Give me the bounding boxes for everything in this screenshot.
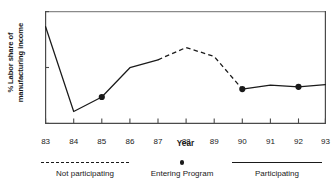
legend-item-entering-program: Entering Program [132, 158, 232, 179]
chart-legend: Not participating Entering Program Parti… [0, 158, 331, 191]
y-axis-label-line-2: manufacturing income [16, 3, 26, 123]
solid-line-icon [228, 158, 326, 169]
axis-lines [45, 11, 326, 124]
y-axis-label: % Labor share of manufacturing income [6, 3, 25, 123]
plot-area: 30 25 20 83 84 85 86 87 88 89 90 91 92 9… [45, 11, 326, 124]
x-tick-marks [46, 118, 326, 123]
series-line-solid-late [242, 85, 325, 90]
legend-item-participating: Participating [228, 158, 326, 179]
dashed-line-icon [33, 158, 137, 169]
series-line-dashed-middle [158, 48, 242, 90]
chart-figure: % Labor share of manufacturing income [0, 0, 331, 191]
legend-label-entering-program: Entering Program [132, 169, 232, 179]
entering-program-markers [99, 84, 302, 100]
legend-label-not-participating: Not participating [33, 169, 137, 179]
data-point-marker [99, 94, 105, 100]
data-point-marker [239, 86, 245, 92]
filled-dot-icon [132, 158, 232, 169]
legend-label-participating: Participating [228, 169, 326, 179]
legend-item-not-participating: Not participating [33, 158, 137, 179]
data-point-marker [295, 84, 301, 90]
x-axis-label: Year [45, 139, 326, 148]
y-axis-label-line-1: % Labor share of [6, 3, 16, 123]
